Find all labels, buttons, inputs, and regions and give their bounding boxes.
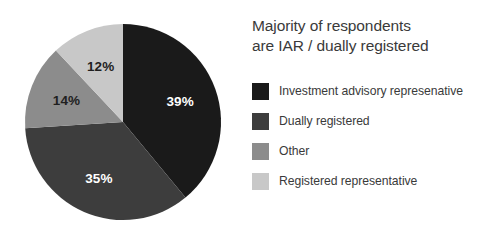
chart-title-line-1: Majority of respondents bbox=[252, 16, 502, 36]
chart-side-panel: Majority of respondents are IAR / dually… bbox=[248, 0, 502, 248]
legend-color-swatch bbox=[252, 83, 269, 100]
legend-item-label: Registered representative bbox=[279, 174, 417, 189]
legend-item: Investment advisory represenative bbox=[252, 76, 502, 106]
legend-item-label: Other bbox=[279, 144, 309, 159]
chart-title: Majority of respondents are IAR / dually… bbox=[252, 16, 502, 56]
legend-color-swatch bbox=[252, 143, 269, 160]
pie-slice-value-label: 39% bbox=[167, 94, 194, 109]
pie-slice-value-label: 14% bbox=[53, 93, 80, 108]
legend-item: Registered representative bbox=[252, 166, 502, 196]
chart-legend: Investment advisory represenativeDually … bbox=[252, 76, 502, 196]
pie-chart-plot-area: 39%35%14%12% bbox=[0, 0, 240, 248]
legend-color-swatch bbox=[252, 113, 269, 130]
chart-title-line-2: are IAR / dually registered bbox=[252, 36, 502, 56]
legend-item: Dually registered bbox=[252, 106, 502, 136]
legend-item-label: Investment advisory represenative bbox=[279, 84, 463, 99]
pie-slice-value-label: 35% bbox=[85, 171, 112, 186]
pie-chart-svg: 39%35%14%12% bbox=[0, 0, 240, 248]
legend-item: Other bbox=[252, 136, 502, 166]
legend-item-label: Dually registered bbox=[279, 114, 370, 129]
pie-slice-group bbox=[25, 24, 221, 220]
legend-color-swatch bbox=[252, 173, 269, 190]
pie-slice-value-label: 12% bbox=[87, 59, 114, 74]
pie-chart-figure: 39%35%14%12% Majority of respondents are… bbox=[0, 0, 502, 248]
